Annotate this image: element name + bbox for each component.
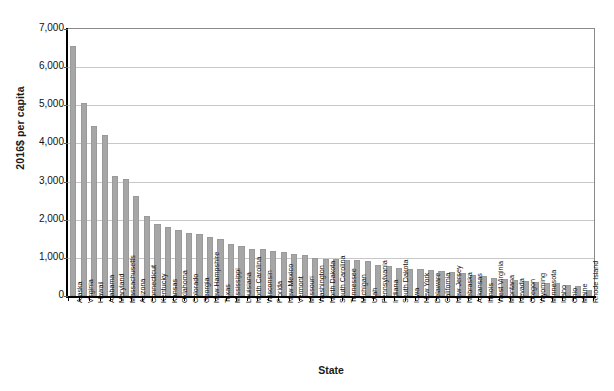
x-axis-tick-label: Alaska: [76, 281, 84, 303]
x-axis-tick-label: Oklahoma: [181, 270, 189, 303]
x-axis-tick-mark: [121, 297, 122, 301]
y-axis-tick-label: 0: [30, 290, 64, 300]
y-axis-tick-mark: [64, 29, 68, 30]
y-axis-title: 2016$ per capita: [14, 58, 30, 198]
x-axis-tick-mark: [426, 297, 427, 301]
y-axis-tick-label: 3,000: [30, 176, 64, 186]
x-axis-tick-mark: [194, 297, 195, 301]
x-axis-tick-mark: [205, 297, 206, 301]
x-axis-tick-mark: [79, 297, 80, 301]
x-axis-tick-label: Ohio: [571, 288, 579, 303]
bar: [70, 46, 76, 296]
x-axis-tick-label: Louisiana: [245, 272, 253, 303]
x-axis-tick-mark: [352, 297, 353, 301]
x-axis-tick-label: Hawaii: [97, 281, 105, 303]
x-axis-tick-mark: [583, 297, 584, 301]
x-axis-tick-mark: [68, 297, 69, 301]
y-axis-tick-label: 6,000: [30, 61, 64, 71]
x-axis-tick-mark: [163, 297, 164, 301]
x-axis-tick-mark: [89, 297, 90, 301]
x-axis-tick-mark: [447, 297, 448, 301]
x-axis-tick-mark: [268, 297, 269, 301]
x-axis-tick-label: Tennessee: [350, 268, 358, 303]
y-axis-tick-mark: [64, 105, 68, 106]
x-axis-tick-mark: [436, 297, 437, 301]
x-axis-tick-mark: [373, 297, 374, 301]
y-axis-tick-mark: [64, 143, 68, 144]
x-axis-tick-mark: [247, 297, 248, 301]
y-axis-tick-label: 4,000: [30, 137, 64, 147]
x-axis-tick-mark: [289, 297, 290, 301]
y-axis-tick-label: 5,000: [30, 99, 64, 109]
x-axis-tick-label: Michigan: [360, 274, 368, 303]
x-axis-tick-mark: [541, 297, 542, 301]
x-axis-tick-mark: [236, 297, 237, 301]
x-axis-tick-label: Kentucky: [160, 273, 168, 303]
x-axis-tick-label: Oregon: [529, 279, 537, 303]
y-axis-tick-labels: 7,0006,0005,0004,0003,0002,0001,0000: [30, 28, 64, 295]
x-axis-tick-label: Massachusetts: [129, 255, 137, 303]
x-axis-tick-mark: [499, 297, 500, 301]
x-axis-tick-label: Virginia: [87, 279, 95, 303]
x-axis-tick-mark: [363, 297, 364, 301]
x-axis-tick-label: Maryland: [118, 273, 126, 303]
x-axis-title: State: [68, 364, 594, 376]
x-axis-tick-label: South Dakota: [402, 259, 410, 303]
x-axis-tick-mark: [226, 297, 227, 301]
x-axis-tick-label: Arizona: [139, 279, 147, 303]
y-axis-tick-mark: [64, 182, 68, 183]
x-axis-tick-mark: [331, 297, 332, 301]
x-axis-tick-mark: [384, 297, 385, 301]
x-axis-tick-label: Pennsylvania: [381, 260, 389, 303]
x-axis-tick-labels: AlaskaVirginiaHawaiiAlabamaMarylandMassa…: [68, 297, 594, 359]
x-axis-tick-label: Missouri: [308, 276, 316, 303]
x-axis-tick-mark: [131, 297, 132, 301]
x-axis-tick-mark: [299, 297, 300, 301]
x-axis-tick-mark: [173, 297, 174, 301]
x-axis-tick-mark: [531, 297, 532, 301]
x-axis-tick-mark: [415, 297, 416, 301]
y-axis-tick-mark: [64, 67, 68, 68]
x-axis-tick-mark: [110, 297, 111, 301]
x-axis-tick-label: South Carolina: [339, 255, 347, 303]
x-axis-tick-mark: [552, 297, 553, 301]
x-axis-tick-label: Montana: [508, 275, 516, 303]
bar: [102, 135, 108, 296]
x-axis-tick-label: Georgia: [203, 277, 211, 303]
x-axis-tick-mark: [320, 297, 321, 301]
x-axis-tick-mark: [342, 297, 343, 301]
x-axis-tick-mark: [257, 297, 258, 301]
y-axis-tick-label: 2,000: [30, 214, 64, 224]
x-axis-tick-mark: [152, 297, 153, 301]
x-axis-tick-mark: [562, 297, 563, 301]
x-axis-tick-label: Illinois: [487, 283, 495, 303]
x-axis-tick-mark: [489, 297, 490, 301]
x-axis-tick-label: New Mexico: [287, 264, 295, 303]
x-axis-tick-mark: [184, 297, 185, 301]
y-axis-tick-mark: [64, 258, 68, 259]
x-axis-tick-mark: [457, 297, 458, 301]
bar: [91, 126, 97, 296]
x-axis-tick-label: California: [444, 273, 452, 303]
y-axis-tick-label: 7,000: [30, 23, 64, 33]
x-axis-tick-mark: [278, 297, 279, 301]
x-axis-tick-mark: [142, 297, 143, 301]
bar-chart: 2016$ per capita 7,0006,0005,0004,0003,0…: [0, 0, 614, 391]
bar: [81, 103, 87, 296]
x-axis-tick-label: Indiana: [392, 279, 400, 303]
x-axis-tick-label: Minnesota: [550, 270, 558, 303]
x-axis-tick-label: New York: [423, 273, 431, 303]
x-axis-tick-mark: [593, 297, 594, 301]
x-axis-tick-mark: [310, 297, 311, 301]
x-axis-tick-label: Nebraska: [466, 272, 474, 303]
y-axis-tick-mark: [64, 220, 68, 221]
x-axis-tick-mark: [573, 297, 574, 301]
plot-area: [68, 28, 595, 296]
x-axis-tick-mark: [394, 297, 395, 301]
x-axis-tick-label: Texas: [224, 284, 232, 303]
x-axis-tick-label: Utah: [371, 288, 379, 303]
bars-series: [68, 29, 594, 296]
x-axis-tick-mark: [215, 297, 216, 301]
x-axis-tick-label: New Hampshire: [213, 252, 221, 303]
x-axis-tick-label: Wisconsin: [266, 270, 274, 303]
